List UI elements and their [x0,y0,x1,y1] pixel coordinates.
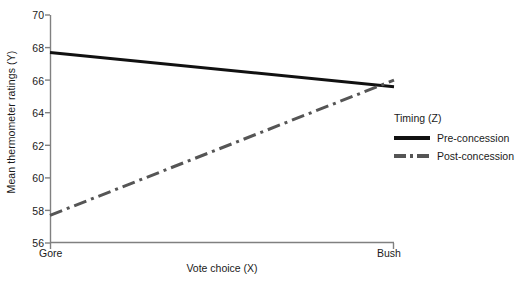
x-tick-label-gore: Gore [39,247,62,259]
chart-figure: Mean thermometer ratings (Y) 70 68 66 64… [0,0,523,284]
legend-label-pre-concession: Pre-concession [437,132,509,144]
y-axis-ticks [45,15,50,243]
series-line-pre-concession [50,52,394,86]
series-line-post-concession [50,80,394,215]
legend-item-post-concession: Post-concession [394,148,522,164]
x-axis-title: Vote choice (X) [50,262,394,274]
x-tick-label-bush: Bush [377,247,401,259]
x-axis-ticks [51,243,394,249]
legend-swatch-solid-icon [394,133,430,143]
legend-label-post-concession: Post-concession [437,150,514,162]
chart-legend: Timing (Z) Pre-concession Post-concessio… [394,112,522,166]
legend-swatch-dashdot-icon [394,151,430,161]
legend-item-pre-concession: Pre-concession [394,130,522,146]
legend-title: Timing (Z) [394,112,522,124]
